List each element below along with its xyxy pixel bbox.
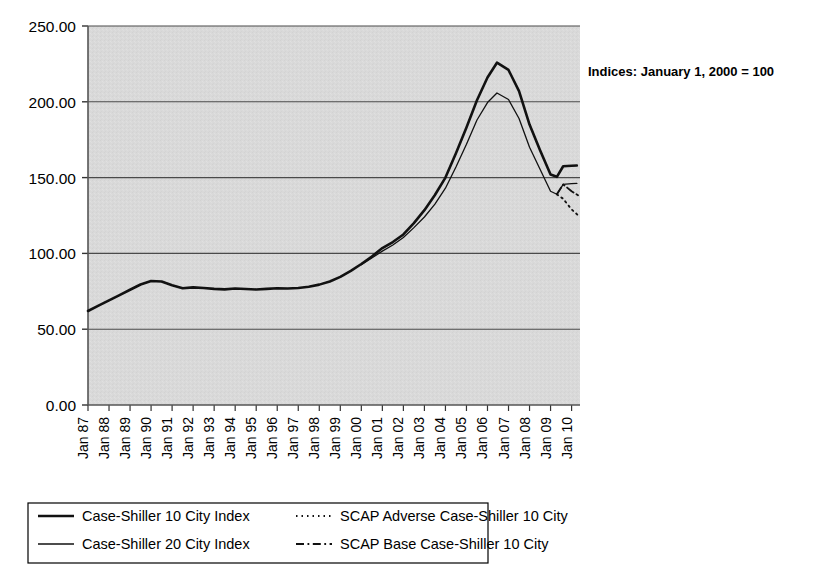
x-axis-ticks [88,405,572,411]
x-axis-tick-label: Jan 95 [243,417,259,459]
x-axis-tick-label: Jan 02 [390,417,406,459]
x-axis-tick-label: Jan 96 [264,417,280,459]
chart-svg: 250.00200.00150.00100.0050.000.00 Jan 87… [0,0,828,578]
x-axis-labels: Jan 87Jan 88Jan 89Jan 90Jan 91Jan 92Jan … [75,417,575,459]
x-axis-tick-label: Jan 92 [180,417,196,459]
x-axis-tick-label: Jan 91 [159,417,175,459]
x-axis-tick-label: Jan 05 [453,417,469,459]
x-axis-tick-label: Jan 06 [474,417,490,459]
x-axis-tick-label: Jan 10 [559,417,575,459]
plot-area-background [88,26,580,405]
x-axis-tick-label: Jan 98 [306,417,322,459]
legend-item-cs10-label: Case-Shiller 10 City Index [82,508,250,524]
legend-item-scap-adverse-label: SCAP Adverse Case-Shiller 10 City [340,508,569,524]
x-axis-tick-label: Jan 01 [369,417,385,459]
x-axis-tick-label: Jan 94 [222,417,238,459]
x-axis-tick-label: Jan 90 [138,417,154,459]
y-axis-tick-label: 150.00 [29,170,77,187]
y-axis-tick-label: 250.00 [29,18,77,35]
y-axis-tick-label: 0.00 [46,397,77,414]
x-axis-tick-label: Jan 93 [201,417,217,459]
y-axis-tick-label: 100.00 [29,245,77,262]
y-axis-labels: 250.00200.00150.00100.0050.000.00 [29,18,77,414]
x-axis-tick-label: Jan 88 [96,417,112,459]
x-axis-tick-label: Jan 89 [117,417,133,459]
x-axis-tick-label: Jan 97 [285,417,301,459]
y-axis-ticks [82,26,88,405]
legend-item-scap-base-label: SCAP Base Case-Shiller 10 City [340,536,549,552]
legend-item-cs20-label: Case-Shiller 20 City Index [82,536,250,552]
chart-container: 250.00200.00150.00100.0050.000.00 Jan 87… [0,0,828,578]
x-axis-tick-label: Jan 87 [75,417,91,459]
x-axis-tick-label: Jan 08 [517,417,533,459]
x-axis-tick-label: Jan 99 [327,417,343,459]
x-axis-tick-label: Jan 04 [432,417,448,459]
y-axis-tick-label: 200.00 [29,94,77,111]
x-axis-tick-label: Jan 00 [348,417,364,459]
x-axis-tick-label: Jan 07 [496,417,512,459]
annotation-label: Indices: January 1, 2000 = 100 [588,64,774,79]
x-axis-tick-label: Jan 03 [411,417,427,459]
x-axis-tick-label: Jan 09 [538,417,554,459]
y-axis-tick-label: 50.00 [37,321,76,338]
